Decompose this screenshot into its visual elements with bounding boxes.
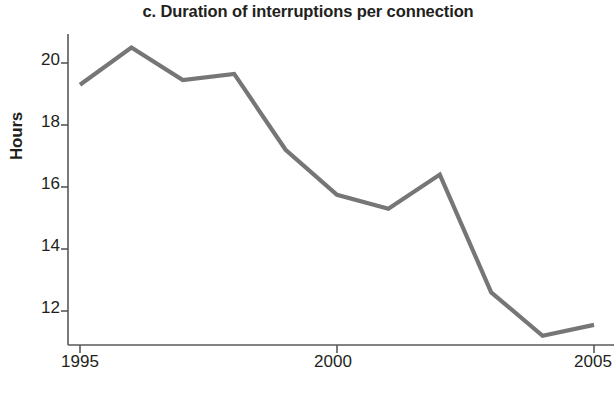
- y-tick-marks: [61, 63, 68, 311]
- plot-area: [0, 0, 616, 411]
- data-series-line: [80, 48, 594, 336]
- axes-group: [68, 34, 614, 345]
- chart-figure: c. Duration of interruptions per connect…: [0, 0, 616, 411]
- x-tick-marks: [80, 345, 594, 353]
